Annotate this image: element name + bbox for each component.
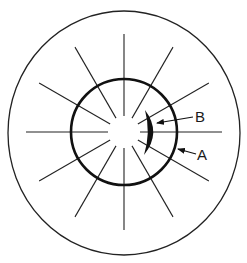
radial-lines xyxy=(26,34,222,230)
label-b: B xyxy=(195,108,205,125)
label-a-arrow xyxy=(178,149,196,154)
diagram-canvas: BA xyxy=(0,0,247,263)
label-a: A xyxy=(197,146,207,163)
